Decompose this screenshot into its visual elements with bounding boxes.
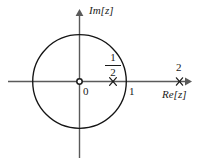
marker-two-label-text: 2 — [176, 61, 182, 73]
real-axis-label: Re[z] — [162, 89, 186, 100]
origin-marker — [77, 79, 82, 84]
real-axis-arrowhead — [185, 78, 192, 86]
marker-two-label: 2 — [176, 62, 182, 73]
fraction-numerator: 1 — [105, 52, 121, 64]
marker-half-label: 1 2 — [105, 52, 121, 78]
origin-label-text: 0 — [83, 85, 89, 97]
origin-label: 0 — [83, 86, 89, 97]
unit-label: 1 — [129, 86, 135, 97]
imaginary-axis-arrowhead — [76, 9, 84, 16]
unit-label-text: 1 — [129, 85, 135, 97]
imaginary-axis-label: Im[z] — [89, 5, 113, 16]
real-axis-label-text: Re[z] — [162, 88, 186, 100]
complex-plane-figure: Im[z] Re[z] 0 1 1 2 2 — [0, 0, 197, 166]
fraction-denominator: 2 — [105, 67, 121, 79]
imaginary-axis-label-text: Im[z] — [89, 4, 113, 16]
plot-canvas — [0, 0, 197, 166]
